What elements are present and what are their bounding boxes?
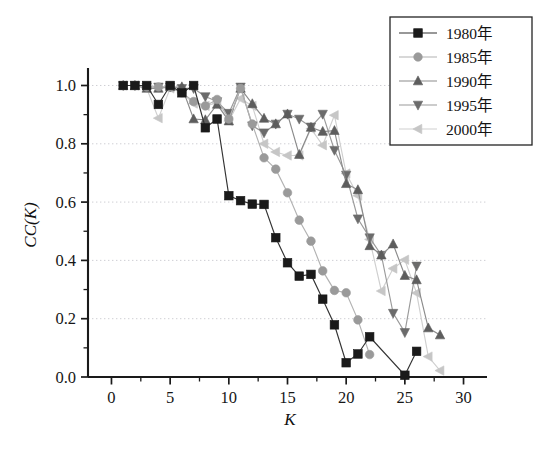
x-tick-label-25: 25 — [397, 388, 414, 407]
marker-circle — [295, 216, 304, 225]
marker-square — [318, 295, 327, 304]
marker-circle — [225, 115, 234, 124]
marker-circle — [414, 53, 423, 62]
marker-square — [412, 347, 421, 356]
cc-k-line-chart: 0.00.20.40.60.81.0 051015202530 CC(K) K … — [0, 0, 546, 453]
marker-square — [119, 81, 128, 90]
legend-label-1985年: 1985年 — [446, 49, 493, 66]
marker-square — [201, 123, 210, 132]
marker-square — [330, 321, 339, 330]
x-tick-label-10: 10 — [221, 388, 238, 407]
marker-square — [414, 29, 423, 38]
marker-square — [260, 200, 269, 209]
marker-square — [131, 81, 140, 90]
x-tick-label-15: 15 — [279, 388, 296, 407]
marker-circle — [330, 286, 339, 295]
x-tick-label-0: 0 — [107, 388, 115, 407]
marker-square — [154, 100, 163, 109]
marker-circle — [260, 153, 269, 162]
marker-circle — [307, 237, 316, 246]
marker-square — [271, 233, 280, 242]
y-tick-label-0.0: 0.0 — [55, 368, 76, 387]
marker-square — [365, 332, 374, 341]
marker-circle — [354, 316, 363, 325]
y-tick-label-0.6: 0.6 — [55, 193, 76, 212]
y-tick-label-0.4: 0.4 — [55, 251, 76, 270]
marker-square — [342, 358, 351, 367]
marker-circle — [318, 267, 327, 276]
marker-circle — [342, 288, 351, 297]
marker-circle — [154, 83, 163, 92]
chart-legend[interactable]: 1980年1985年1990年1995年2000年 — [390, 17, 532, 145]
x-tick-label-30: 30 — [455, 388, 472, 407]
chart-figure: 0.00.20.40.60.81.0 051015202530 CC(K) K … — [0, 0, 546, 453]
x-tick-label-5: 5 — [166, 388, 174, 407]
marker-square — [178, 88, 187, 97]
y-axis-title: CC(K) — [21, 202, 40, 248]
marker-square — [189, 81, 198, 90]
marker-square — [283, 258, 292, 267]
marker-square — [213, 115, 222, 124]
marker-circle — [201, 102, 210, 111]
marker-square — [236, 196, 245, 205]
marker-circle — [271, 165, 280, 174]
y-tick-label-0.8: 0.8 — [55, 134, 76, 153]
marker-circle — [248, 120, 257, 129]
y-tick-label-1.0: 1.0 — [55, 76, 76, 95]
legend-label-1995年: 1995年 — [446, 97, 493, 114]
marker-circle — [283, 188, 292, 197]
x-tick-label-20: 20 — [338, 388, 355, 407]
marker-circle — [213, 95, 222, 104]
marker-square — [225, 191, 234, 200]
marker-square — [295, 272, 304, 281]
legend-label-1990年: 1990年 — [446, 73, 493, 90]
legend-label-2000年: 2000年 — [446, 121, 493, 138]
y-tick-label-0.2: 0.2 — [55, 309, 76, 328]
marker-circle — [236, 84, 245, 93]
marker-square — [166, 81, 175, 90]
legend-label-1980年: 1980年 — [446, 25, 493, 42]
marker-square — [401, 371, 410, 380]
marker-circle — [189, 97, 198, 106]
marker-square — [248, 200, 257, 209]
marker-square — [142, 81, 151, 90]
marker-square — [354, 350, 363, 359]
marker-circle — [365, 350, 374, 359]
x-axis-title: K — [283, 410, 297, 429]
marker-square — [307, 270, 316, 279]
